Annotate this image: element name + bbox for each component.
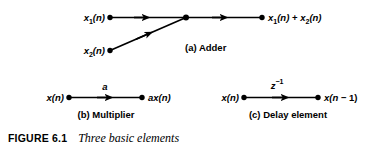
figure-6-1: x1(n) x2(n) x1(n) + x2(n) (a) Adder xyxy=(0,0,387,151)
multiplier-output-label: ax(n) xyxy=(148,92,171,103)
delay-output-node xyxy=(315,95,320,100)
delay-output-label: x(n − 1) xyxy=(323,92,358,103)
adder-input2-label: x2(n) xyxy=(83,45,105,58)
delay-sub-caption: (c) Delay element xyxy=(249,109,328,120)
adder-output-node xyxy=(259,15,264,20)
delay-operator-label: z−1 xyxy=(270,78,284,91)
multiplier-sub-caption: (b) Multiplier xyxy=(78,109,135,120)
multiplier-input-label: x(n) xyxy=(46,92,64,103)
adder-output-label: x1(n) + x2(n) xyxy=(267,12,322,25)
figure-caption-title: Three basic elements xyxy=(78,131,179,145)
adder-input1-label: x1(n) xyxy=(83,12,105,25)
multiplier-gain-label: a xyxy=(102,81,107,92)
multiplier-output-node xyxy=(139,95,144,100)
adder-diagram: x1(n) x2(n) x1(n) + x2(n) (a) Adder xyxy=(83,12,322,58)
adder-sub-caption: (a) Adder xyxy=(185,42,227,53)
adder-input2-arrow xyxy=(136,34,149,40)
figure-caption: FIGURE 6.1Three basic elements xyxy=(8,128,179,146)
delay-input-label: x(n) xyxy=(221,92,239,103)
multiplier-diagram: x(n) a ax(n) (b) Multiplier xyxy=(46,81,171,120)
figure-caption-number: FIGURE 6.1 xyxy=(8,132,67,144)
delay-diagram: x(n) z−1 x(n − 1) (c) Delay element xyxy=(221,78,358,120)
